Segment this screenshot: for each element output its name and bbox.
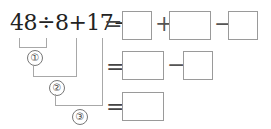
step-2-label: ② [49, 80, 65, 96]
answer-box-row1-2[interactable] [169, 11, 211, 40]
answer-box-row1-3[interactable] [228, 11, 258, 40]
bracket-2-bottom [33, 76, 77, 77]
bracket-3-bottom [55, 105, 103, 106]
bracket-2-right [76, 38, 77, 77]
answer-box-row2-2[interactable] [183, 51, 213, 80]
answer-box-row2-1[interactable] [122, 51, 164, 80]
answer-box-row1-1[interactable] [122, 11, 152, 40]
step-3-label: ③ [72, 109, 88, 125]
bracket-3-right [102, 38, 103, 106]
step-1-label: ① [27, 50, 43, 66]
answer-box-row3[interactable] [122, 92, 164, 121]
equals-sign-row1: = [104, 13, 122, 35]
bracket-1-bottom [19, 47, 47, 48]
